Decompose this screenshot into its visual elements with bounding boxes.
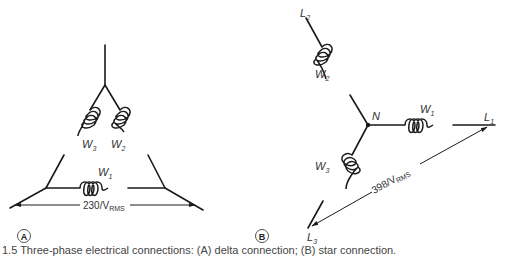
star-voltage-arrow-lower [312, 192, 372, 226]
star-voltage-arrow-upper [420, 127, 487, 164]
winding-w1-delta [46, 182, 165, 196]
delta-right-terminal [165, 188, 203, 210]
figure-caption: 1.5 Three-phase electrical connections: … [2, 244, 396, 256]
label-l1: L1 [484, 111, 494, 125]
label-w2: W2 [111, 138, 125, 152]
label-w2-star: W2 [315, 68, 329, 82]
delta-voltage-label: 230/VRMS [83, 200, 125, 212]
winding-w3-star [308, 125, 368, 228]
neutral-node [366, 123, 370, 127]
panel-b-badge: B [256, 230, 269, 243]
label-l3: L3 [307, 231, 317, 245]
star-connection: L2 W2 N W1 L1 W3 L3 398/VRMS B [256, 7, 496, 245]
delta-connection: W3 W2 W1 230/VRMS A [10, 45, 203, 243]
label-w3: W3 [82, 138, 96, 152]
label-w1-star: W1 [420, 103, 434, 117]
star-voltage-label: 398/VRMS [370, 166, 413, 197]
winding-w2-delta [105, 85, 165, 188]
label-l2: L2 [300, 7, 310, 21]
winding-w3-delta [46, 85, 105, 188]
svg-text:B: B [259, 232, 266, 242]
panel-a-badge: A [18, 230, 31, 243]
label-w3-star: W3 [315, 160, 329, 174]
svg-text:A: A [21, 232, 28, 242]
winding-w1-star [368, 119, 495, 133]
label-neutral: N [372, 110, 380, 122]
label-w1: W1 [98, 166, 112, 180]
